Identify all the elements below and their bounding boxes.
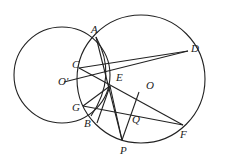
label-b: B [84, 118, 91, 129]
label-c: C [72, 59, 79, 70]
segment-cd [79, 51, 188, 68]
label-e: E [116, 72, 123, 83]
label-d: D [191, 43, 199, 54]
label-p: P [120, 145, 127, 156]
label-o-prime: O' [58, 76, 68, 87]
label-f: F [180, 129, 187, 140]
label-q: Q [132, 114, 140, 125]
label-g: G [72, 102, 80, 113]
segment-o-prime-d [64, 51, 188, 82]
label-a: A [91, 24, 98, 35]
geometry-diagram: A C D E O' O G B Q F P [0, 0, 225, 164]
diagram-svg [0, 0, 225, 164]
label-o: O [146, 80, 154, 91]
segment-cf [79, 68, 183, 125]
